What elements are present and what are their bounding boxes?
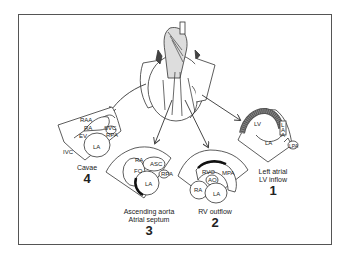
- number-view-2: 2: [200, 216, 230, 229]
- label-ra: RA: [84, 125, 92, 132]
- caption-view-1-line1: Left atrial: [255, 168, 291, 176]
- view-1-sector: [238, 110, 298, 162]
- label-ra: RA: [135, 157, 143, 164]
- label-la: LA: [213, 191, 220, 198]
- label-la: LA: [145, 181, 152, 188]
- label-la: LA: [93, 144, 100, 151]
- label-ivc: IVC: [63, 149, 73, 156]
- caption-view-3-line1: Ascending aorta: [118, 208, 180, 216]
- number-view-3: 3: [134, 224, 164, 237]
- label-rpa: RPA: [161, 171, 173, 178]
- label-lv: LV: [254, 121, 261, 128]
- label-ao: AO: [208, 177, 217, 184]
- label-raa: RAA: [80, 117, 92, 124]
- label-mpa: MPA: [222, 170, 235, 177]
- number-view-1: 1: [258, 184, 288, 197]
- label-rpa: RPA: [106, 132, 118, 139]
- label-a2: A: [281, 132, 285, 139]
- label-asc: ASC: [150, 161, 162, 168]
- label-svc: SVC: [104, 125, 116, 132]
- arrow-to-view-1: [202, 95, 240, 120]
- number-view-4: 4: [72, 172, 102, 185]
- label-ra: RA: [194, 187, 202, 194]
- label-fo: FO: [134, 168, 142, 175]
- label-rvo: RVO: [202, 169, 215, 176]
- label-ev: EV: [79, 133, 87, 140]
- label-lpa: LPA: [289, 143, 298, 150]
- label-la: LA: [265, 140, 272, 147]
- heart-illustration: [140, 22, 215, 121]
